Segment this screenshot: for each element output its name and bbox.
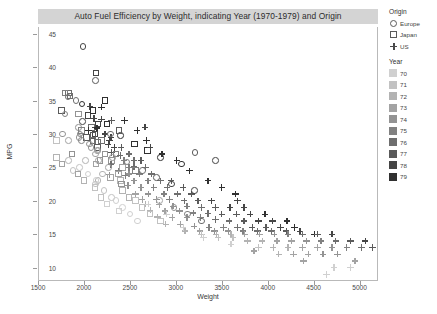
data-point-circle: [156, 197, 163, 204]
data-point-plus: [262, 211, 268, 217]
x-tick-mark: [176, 281, 177, 285]
year-legend: Year 70717273747576777879: [389, 58, 437, 182]
data-point-plus: [121, 117, 127, 123]
year-color-swatch: [389, 138, 397, 146]
data-point-plus: [241, 204, 247, 210]
x-tick-mark: [314, 281, 315, 285]
legend-year-item[interactable]: 70: [389, 68, 437, 78]
data-point-plus: [299, 244, 305, 250]
data-point-square: [116, 208, 123, 215]
legend-year-item[interactable]: 74: [389, 114, 437, 124]
data-point-circle: [171, 204, 178, 211]
legend-origin-label: Europe: [400, 20, 420, 27]
data-point-square: [92, 184, 99, 191]
data-point-plus: [333, 238, 339, 244]
x-tick-label: 4000: [248, 284, 288, 291]
data-point-square: [102, 97, 109, 104]
data-point-circle: [168, 181, 175, 188]
data-point-plus: [215, 234, 221, 240]
data-point-square: [75, 111, 82, 118]
data-point-plus: [134, 127, 140, 133]
data-point-plus: [208, 198, 214, 204]
data-point-plus: [244, 238, 250, 244]
y-tick-mark: [33, 34, 37, 35]
data-point-square: [98, 194, 105, 201]
data-point-plus: [347, 238, 353, 244]
data-point-plus: [180, 224, 186, 230]
data-point-circle: [80, 43, 87, 50]
data-point-plus: [276, 251, 282, 257]
data-point-plus: [323, 271, 329, 277]
square-marker-icon: [389, 30, 400, 40]
data-point-plus: [186, 168, 192, 174]
legend-year-label: 75: [400, 127, 407, 134]
data-point-plus: [227, 204, 233, 210]
legend-year-label: 71: [400, 81, 407, 88]
data-point-plus: [190, 210, 196, 216]
legend-year-item[interactable]: 78: [389, 160, 437, 170]
data-point-square: [118, 181, 125, 188]
data-point-plus: [132, 191, 138, 197]
data-point-circle: [101, 187, 108, 194]
data-point-square: [107, 174, 114, 181]
data-point-plus: [143, 137, 149, 143]
data-point-plus: [163, 211, 169, 217]
data-point-plus: [98, 104, 104, 110]
legend-year-label: 77: [400, 150, 407, 157]
legend-year-item[interactable]: 71: [389, 80, 437, 90]
data-point-square: [75, 171, 82, 178]
data-point-square: [116, 127, 123, 134]
legend-year-item[interactable]: 72: [389, 91, 437, 101]
data-point-plus: [334, 251, 340, 257]
legend-year-item[interactable]: 79: [389, 172, 437, 182]
legend-year-item[interactable]: 75: [389, 126, 437, 136]
data-point-plus: [200, 234, 206, 240]
data-point-circle: [86, 141, 93, 148]
legend-year-label: 72: [400, 93, 407, 100]
legend-year-item[interactable]: 76: [389, 137, 437, 147]
data-point-plus: [145, 191, 151, 197]
data-point-circle: [62, 111, 69, 118]
data-point-square: [90, 107, 97, 114]
data-point-plus: [314, 231, 320, 237]
chart-title: Auto Fuel Efficiency by Weight, indicati…: [38, 10, 378, 23]
data-point-plus: [176, 208, 182, 214]
data-point-square: [131, 141, 138, 148]
data-point-plus: [320, 251, 326, 257]
data-point-plus: [247, 211, 253, 217]
x-tick-label: 2500: [110, 284, 150, 291]
x-tick-mark: [84, 281, 85, 285]
legend-origin-item[interactable]: Japan: [389, 30, 437, 40]
year-color-swatch: [389, 104, 397, 112]
data-point-plus: [274, 238, 280, 244]
data-point-plus: [184, 203, 190, 209]
y-tick-label: 10: [26, 264, 56, 271]
data-point-circle: [82, 157, 89, 164]
data-point-circle: [127, 211, 134, 218]
x-tick-label: 1500: [18, 284, 58, 291]
data-point-circle: [139, 167, 146, 174]
year-color-swatch: [389, 92, 397, 100]
x-tick-mark: [222, 281, 223, 285]
legend-year-item[interactable]: 77: [389, 149, 437, 159]
data-point-plus: [205, 178, 211, 184]
data-point-plus: [255, 218, 261, 224]
data-point-plus: [241, 218, 247, 224]
x-tick-label: 2000: [64, 284, 104, 291]
data-point-plus: [169, 214, 175, 220]
data-point-plus: [344, 244, 350, 250]
legend-origin-item[interactable]: US: [389, 41, 437, 51]
data-point-circle: [105, 164, 112, 171]
legend-year-item[interactable]: 73: [389, 103, 437, 113]
plus-marker-icon: [389, 41, 400, 51]
data-point-plus: [329, 231, 335, 237]
data-point-plus: [305, 251, 311, 257]
data-point-plus: [212, 216, 218, 222]
y-tick-mark: [33, 167, 37, 168]
legend-year-label: 78: [400, 162, 407, 169]
year-legend-entries: 70717273747576777879: [389, 68, 437, 182]
data-point-plus: [118, 144, 124, 150]
legend-origin-item[interactable]: Europe: [389, 18, 437, 28]
data-point-square: [53, 137, 60, 144]
year-color-swatch: [389, 161, 397, 169]
